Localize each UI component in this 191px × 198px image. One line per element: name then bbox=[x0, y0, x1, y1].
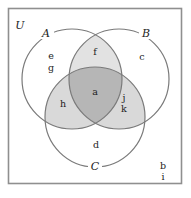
label-gap-A bbox=[39, 26, 54, 39]
label-gap-C bbox=[88, 160, 102, 173]
venn-diagram-canvas bbox=[0, 0, 191, 198]
label-gap-B bbox=[139, 26, 154, 39]
venn-diagram-figure: U A B C e g f c a h j k d b i bbox=[0, 0, 191, 198]
